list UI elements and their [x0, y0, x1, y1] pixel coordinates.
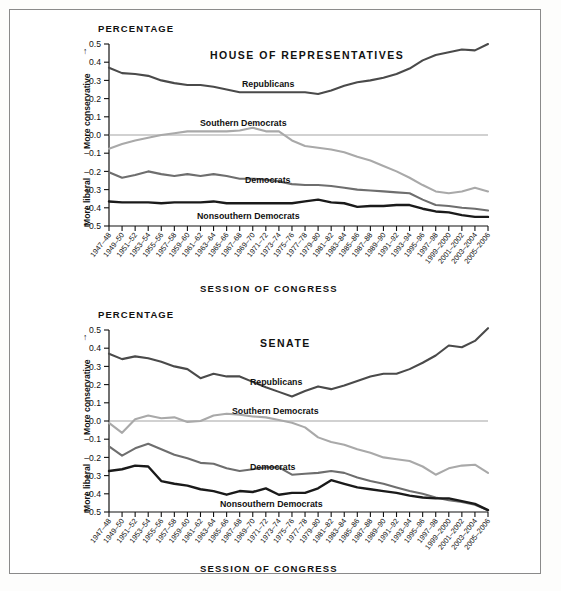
senate-label-democrats: Democrats: [250, 462, 296, 472]
senate-chart-title: SENATE: [260, 337, 311, 349]
senate-x-label-group: 1947–481949–501951–521953–541955–561957–…: [88, 517, 492, 552]
senate-y-tick-label: –0.2: [84, 453, 101, 463]
senate-y-tick-label: 0.5: [89, 325, 101, 335]
chart-panel-house: PERCENTAGE 0.50.40.30.20.10.0–0.1–0.2–0.…: [10, 14, 542, 294]
house-series-southern-democrats: [109, 128, 488, 194]
house-down-arrow-icon: ↓: [83, 218, 87, 228]
senate-more-conservative-label: More conservative: [82, 359, 92, 435]
senate-x-axis-title: SESSION OF CONGRESS: [200, 563, 338, 574]
senate-label-republicans: Republicans: [250, 377, 302, 387]
senate-x-tick-group: [109, 512, 488, 517]
senate-series-group: [109, 328, 488, 510]
house-up-arrow-icon: ↑: [83, 46, 87, 56]
senate-y-axis-title: PERCENTAGE: [98, 309, 174, 320]
house-y-tick-label: 0.5: [89, 39, 101, 49]
figure-border: PERCENTAGE 0.50.40.30.20.10.0–0.1–0.2–0.…: [9, 9, 541, 574]
house-more-conservative-label: More conservative: [82, 73, 92, 149]
senate-up-arrow-icon: ↑: [83, 332, 87, 342]
senate-label-nonsouthern-democrats: Nonsouthern Democrats: [220, 499, 323, 509]
house-series-group: [109, 44, 488, 217]
chart-panel-senate: PERCENTAGE 0.50.40.30.20.10.0–0.1–0.2–0.…: [10, 300, 542, 575]
senate-series-southern-democrats: [109, 414, 488, 475]
house-x-tick-group: [109, 226, 488, 231]
house-label-nonsouthern-democrats: Nonsouthern Democrats: [197, 211, 300, 221]
house-chart-svg: PERCENTAGE 0.50.40.30.20.10.0–0.1–0.2–0.…: [10, 14, 542, 296]
house-label-republicans: Republicans: [242, 79, 294, 89]
house-label-southern-democrats: Southern Democrats: [200, 118, 287, 128]
house-chart-title: HOUSE OF REPRESENTATIVES: [210, 49, 404, 61]
house-x-label-group: 1947–481949–501951–521953–541955–561957–…: [88, 231, 492, 266]
senate-y-tick-label: 0.4: [89, 343, 101, 353]
figure-root: PERCENTAGE 0.50.40.30.20.10.0–0.1–0.2–0.…: [0, 0, 561, 591]
house-y-axis-title: PERCENTAGE: [98, 23, 174, 34]
house-x-axis-title: SESSION OF CONGRESS: [200, 283, 338, 294]
house-y-tick-label: 0.4: [89, 57, 101, 67]
senate-down-arrow-icon: ↓: [83, 504, 87, 514]
house-y-tick-label: –0.2: [84, 167, 101, 177]
house-series-democrats: [109, 171, 488, 210]
senate-chart-svg: PERCENTAGE 0.50.40.30.20.10.0–0.1–0.2–0.…: [10, 300, 542, 575]
senate-label-southern-democrats: Southern Democrats: [232, 406, 319, 416]
house-label-democrats: Democrats: [245, 175, 291, 185]
